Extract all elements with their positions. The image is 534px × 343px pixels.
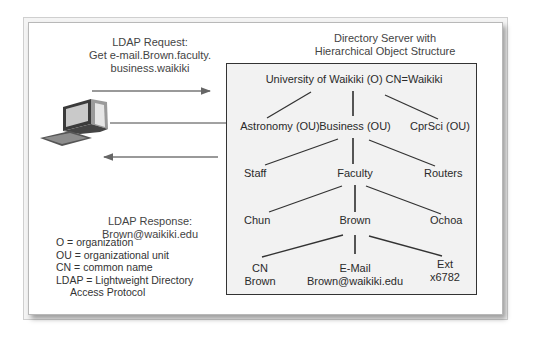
legend-item-ou: OU = organizational unit — [56, 249, 193, 262]
leaf-email-line2: Brown@waikiki.edu — [305, 275, 405, 288]
leaf-email-line1: E-Mail — [305, 262, 405, 275]
legend: O = organization OU = organizational uni… — [56, 236, 193, 299]
tree-node-chun: Chun — [244, 214, 270, 227]
desktop-computer-icon — [40, 99, 108, 146]
leaf-ext-line1: Ext — [425, 258, 465, 271]
tree-node-brown: Brown — [325, 214, 385, 227]
tree-node-staff: Staff — [244, 167, 266, 180]
tree-root: University of Waikiki (O) CN=Waikiki — [254, 73, 454, 86]
tree-leaf-cn: CN Brown — [240, 262, 280, 288]
legend-item-o: O = organization — [56, 236, 193, 249]
tree-node-routers: Routers — [424, 167, 463, 180]
tree-node-astronomy: Astronomy (OU) — [240, 120, 320, 133]
legend-item-cn: CN = common name — [56, 261, 193, 274]
tree-leaf-email: E-Mail Brown@waikiki.edu — [305, 262, 405, 288]
leaf-ext-line2: x6782 — [425, 271, 465, 284]
tree-node-ochoa: Ochoa — [430, 214, 462, 227]
legend-item-ldap-cont: Access Protocol — [56, 286, 193, 299]
legend-item-ldap: LDAP = Lightweight Directory — [56, 274, 193, 287]
tree-leaf-ext: Ext x6782 — [425, 258, 465, 284]
leaf-cn-line1: CN — [240, 262, 280, 275]
tree-node-faculty: Faculty — [325, 167, 385, 180]
tree-node-cprsci: CprSci (OU) — [408, 120, 472, 133]
tree-node-business: Business (OU) — [315, 120, 395, 133]
leaf-cn-line2: Brown — [240, 275, 280, 288]
